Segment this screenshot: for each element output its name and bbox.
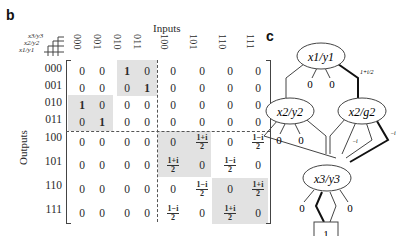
matrix-cell: 0	[137, 178, 157, 200]
edge-top-left	[286, 64, 304, 98]
matrix-cell: 0	[72, 111, 92, 133]
matrix-cell: 0	[192, 111, 212, 133]
matrix-cell: 1−i2	[220, 154, 240, 176]
matrix-cell: 0	[137, 154, 157, 176]
matrix-cell: 0	[72, 131, 92, 153]
edge-top-right-weighted	[338, 64, 358, 98]
node-label-top: x1/y1	[307, 50, 334, 64]
matrix-cell: 1+i2	[192, 131, 212, 153]
node-label-right: x2/g2	[348, 105, 376, 119]
col-header: 001	[92, 34, 103, 50]
col-header: 101	[188, 34, 199, 50]
fraction: 1+i2	[224, 205, 237, 222]
fraction-denominator: 2	[200, 143, 204, 151]
matrix-cell: 0	[117, 202, 137, 224]
svg-text:0: 0	[329, 78, 335, 90]
fraction-denominator: 2	[228, 166, 232, 174]
col-header: 110	[217, 34, 228, 50]
svg-text:0: 0	[298, 134, 304, 146]
inputs-title: Inputs	[153, 22, 181, 34]
matrix-cell: 0	[192, 202, 212, 224]
fraction-denominator: 2	[171, 166, 175, 174]
matrix-cell: 1+i2	[163, 154, 183, 176]
matrix-cell: 0	[220, 131, 240, 153]
row-header: 101	[32, 155, 62, 167]
matrix-cell: 0	[72, 202, 92, 224]
matrix-cell: 0	[220, 111, 240, 133]
block-divider-vertical	[157, 60, 158, 222]
col-header: 000	[72, 34, 83, 50]
fraction-denominator: 2	[228, 214, 232, 222]
terminal-label: 1	[323, 228, 329, 236]
outputs-title: Outputs	[17, 130, 29, 165]
svg-text:0: 0	[307, 78, 313, 90]
col-header: 111	[245, 34, 256, 49]
row-header: 001	[32, 79, 62, 91]
row-header: 010	[32, 96, 62, 108]
matrix-cell: 0	[220, 178, 240, 200]
matrix-cell: 0	[117, 154, 137, 176]
fraction-denominator: 2	[200, 190, 204, 198]
matrix-cell: 1	[92, 111, 112, 133]
matrix-cell: 0	[137, 202, 157, 224]
node-label-left: x2/y2	[276, 105, 303, 119]
fraction: 1+i2	[196, 134, 209, 151]
matrix-cell: 0	[192, 154, 212, 176]
matrix-cell: 0	[137, 131, 157, 153]
matrix-cell: 1+i2	[220, 202, 240, 224]
decision-diagram: x1/y1 x2/y2 x2/g2 x3/y3 1 0 0 1+i/2 0 0 …	[260, 30, 401, 236]
col-header: 100	[159, 34, 170, 50]
panel-label-b: b	[6, 7, 15, 23]
matrix-cell: 0	[92, 178, 112, 200]
col-header: 011	[132, 34, 143, 50]
corner-grid-icon	[44, 36, 66, 58]
matrix-cell: 1−i2	[192, 178, 212, 200]
fraction: 1−i2	[167, 205, 180, 222]
svg-text:0: 0	[276, 134, 282, 146]
svg-text:0: 0	[347, 202, 353, 214]
matrix-cell: 0	[163, 111, 183, 133]
matrix-cell: 0	[92, 202, 112, 224]
matrix-cell: 0	[117, 111, 137, 133]
corner-label-x1: x1/y1	[19, 47, 34, 54]
matrix-cell: 0	[163, 131, 183, 153]
matrix-cell: 0	[137, 111, 157, 133]
matrix-cell: 1−i2	[163, 202, 183, 224]
svg-text:−i: −i	[352, 138, 358, 144]
matrix-cell: 0	[72, 154, 92, 176]
fraction: 1−i2	[196, 181, 209, 198]
row-header: 110	[32, 179, 62, 191]
fraction-denominator: 2	[171, 214, 175, 222]
row-header: 000	[32, 62, 62, 74]
row-header: 100	[32, 131, 62, 143]
matrix-bracket-left	[66, 60, 71, 224]
svg-text:1+i/2: 1+i/2	[360, 69, 373, 75]
svg-text:0: 0	[299, 202, 305, 214]
matrix-cell: 0	[92, 154, 112, 176]
row-header: 111	[32, 203, 62, 215]
node-label-bottom: x3/y3	[313, 172, 340, 186]
svg-text:−i: −i	[390, 130, 396, 136]
matrix-cell: 0	[163, 178, 183, 200]
col-header: 010	[112, 34, 123, 50]
matrix-cell: 0	[117, 131, 137, 153]
fraction: 1−i2	[224, 157, 237, 174]
fraction: 1+i2	[167, 157, 180, 174]
matrix-cell: 0	[92, 131, 112, 153]
row-header: 011	[32, 113, 62, 125]
matrix-cell: 0	[72, 178, 92, 200]
matrix-cell: 0	[117, 178, 137, 200]
